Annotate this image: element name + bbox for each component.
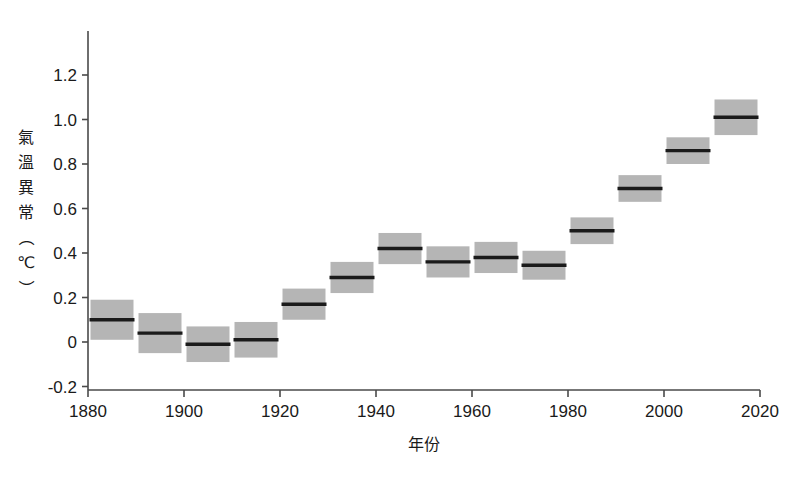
x-tick-label-2020: 2020: [741, 402, 779, 421]
bar-1980s: [570, 217, 615, 244]
cropped-header-text: ······ ···· ·· ·· ·······: [40, 0, 290, 5]
y-axis-title-char-2: 異: [18, 178, 34, 197]
x-tick-label-1980: 1980: [549, 402, 587, 421]
y-tick-label-0: 0: [68, 333, 77, 352]
bar-1940s: [378, 233, 423, 264]
y-axis-title-char-5: ℃: [17, 253, 35, 272]
temperature-anomaly-chart: ······ ···· ·· ·· ······· 氣溫異常（℃） 1.21.0…: [0, 0, 792, 479]
y-axis-tick-labels: 1.21.00.80.60.40.20-0.2: [48, 66, 77, 397]
bar-1960s: [474, 242, 519, 273]
x-tick-label-1900: 1900: [165, 402, 203, 421]
x-tick-label-2000: 2000: [645, 402, 683, 421]
bar-1910s: [234, 322, 279, 358]
bar-1920s: [282, 289, 327, 320]
x-axis-tick-labels: 18801900192019401960198020002020: [69, 402, 779, 421]
chart-canvas: 氣溫異常（℃） 1.21.00.80.60.40.20-0.2 18801900…: [0, 0, 792, 479]
x-axis-ticks: [88, 390, 760, 397]
x-tick-label-1940: 1940: [357, 402, 395, 421]
y-tick-label-1.2: 1.2: [53, 66, 77, 85]
y-axis-title-char-3: 常: [18, 203, 34, 222]
bar-1900s: [186, 326, 231, 362]
bar-1990s: [618, 175, 663, 202]
y-tick-label-0.8: 0.8: [53, 155, 77, 174]
y-axis-title-char-1: 溫: [18, 153, 34, 172]
y-tick-label-0.6: 0.6: [53, 200, 77, 219]
y-axis-ticks: [82, 75, 88, 387]
x-tick-label-1880: 1880: [69, 402, 107, 421]
bar-1880s: [90, 300, 135, 340]
bar-2010s: [714, 99, 759, 135]
bar-1930s: [330, 262, 375, 293]
data-bars: [90, 99, 759, 362]
y-axis-title-char-6: ）: [17, 280, 36, 296]
bar-2000s: [666, 137, 711, 164]
x-tick-label-1920: 1920: [261, 402, 299, 421]
x-tick-label-1960: 1960: [453, 402, 491, 421]
x-axis-title: 年份: [408, 435, 440, 454]
y-axis-title-char-0: 氣: [18, 128, 34, 147]
y-tick-label-0.4: 0.4: [53, 244, 77, 263]
bar-1890s: [138, 313, 183, 353]
y-axis-title-char-4: （: [17, 230, 36, 246]
bar-1950s: [426, 246, 471, 277]
y-tick-label-1.0: 1.0: [53, 111, 77, 130]
y-tick-label--0.2: -0.2: [48, 378, 77, 397]
bar-1970s: [522, 251, 567, 280]
y-tick-label-0.2: 0.2: [53, 289, 77, 308]
y-axis-title: 氣溫異常（℃）: [17, 128, 36, 296]
